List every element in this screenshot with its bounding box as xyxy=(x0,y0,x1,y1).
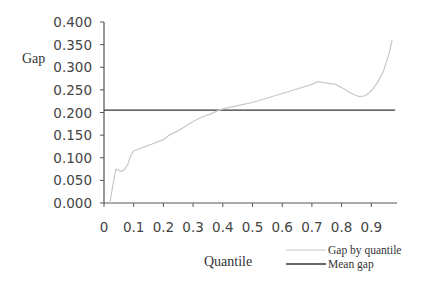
y-axis-title: Gap xyxy=(22,51,45,66)
y-axis-ticks: 0.0000.0500.1000.1500.2000.2500.3000.350… xyxy=(53,14,104,211)
x-tick-label: 0.4 xyxy=(212,219,233,235)
x-tick-label: 0.1 xyxy=(123,219,144,235)
x-axis-ticks: 00.10.20.30.40.50.60.70.80.9 xyxy=(100,203,382,235)
y-tick-label: 0.300 xyxy=(53,59,92,75)
x-tick-label: 0.2 xyxy=(153,219,174,235)
y-tick-label: 0.200 xyxy=(53,105,92,121)
legend-label-gap-by-quantile: Gap by quantile xyxy=(328,244,401,257)
legend-label-mean-gap: Mean gap xyxy=(328,258,374,271)
y-tick-label: 0.150 xyxy=(53,127,92,143)
x-tick-label: 0.9 xyxy=(361,219,382,235)
x-tick-label: 0.7 xyxy=(301,219,322,235)
gap-by-quantile-line xyxy=(110,40,392,203)
y-tick-label: 0.250 xyxy=(53,82,92,98)
y-tick-label: 0.000 xyxy=(53,195,92,211)
x-tick-label: 0 xyxy=(100,219,109,235)
legend: Gap by quantile Mean gap xyxy=(286,244,401,271)
x-tick-label: 0.8 xyxy=(331,219,352,235)
y-tick-label: 0.050 xyxy=(53,172,92,188)
y-tick-label: 0.100 xyxy=(53,150,92,166)
x-tick-label: 0.6 xyxy=(271,219,292,235)
x-axis-title: Quantile xyxy=(204,254,252,269)
x-tick-label: 0.3 xyxy=(182,219,203,235)
y-tick-label: 0.400 xyxy=(53,14,92,30)
gap-quantile-chart: 0.0000.0500.1000.1500.2000.2500.3000.350… xyxy=(0,0,427,288)
x-tick-label: 0.5 xyxy=(242,219,263,235)
y-tick-label: 0.350 xyxy=(53,37,92,53)
